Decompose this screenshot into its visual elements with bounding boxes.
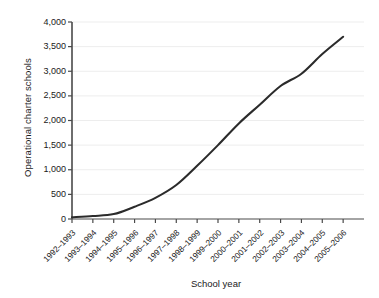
x-axis-tick-labels: 1992–19931993–19941994–19951995–19961996… — [0, 0, 379, 298]
x-axis-title: School year — [72, 278, 360, 289]
chart-container: Operational charter schools 05001,0001,5… — [0, 0, 379, 298]
